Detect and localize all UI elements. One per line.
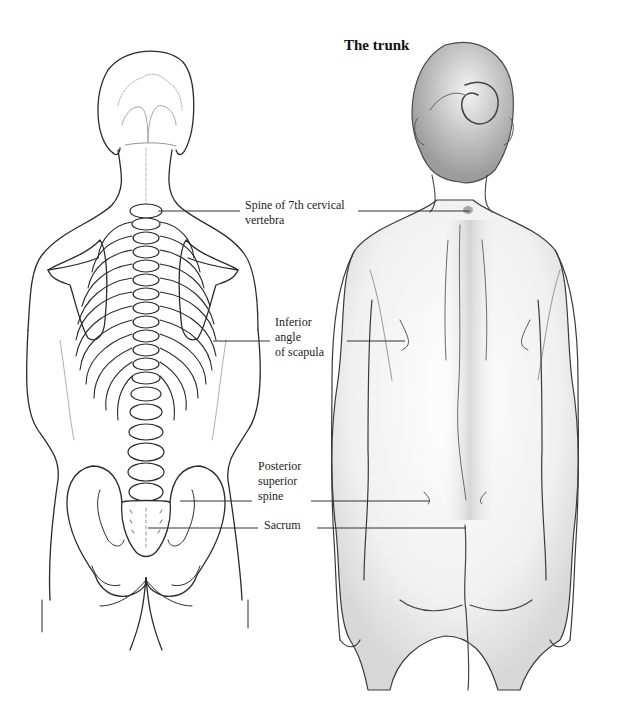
- skeleton-figure: [27, 51, 261, 650]
- figure-title: The trunk: [344, 37, 409, 54]
- label-inferior-angle-of-scapula: Inferior angle of scapula: [273, 315, 326, 360]
- label-line: of scapula: [275, 345, 324, 360]
- label-line: spine: [258, 489, 301, 504]
- label-spine-of-7th-cervical-vertebra: Spine of 7th cervical vertebra: [243, 198, 347, 228]
- label-line: Spine of 7th cervical: [245, 198, 345, 213]
- anatomy-figure: The trunk Spine of 7th cervical vertebra…: [0, 0, 626, 725]
- label-posterior-superior-spine: Posterior superior spine: [256, 459, 303, 504]
- label-line: Posterior: [258, 459, 301, 474]
- label-line: angle: [275, 330, 324, 345]
- label-line: vertebra: [245, 213, 345, 228]
- illustration: [0, 0, 626, 725]
- ribs-right: [160, 222, 216, 420]
- label-line: Inferior: [275, 315, 324, 330]
- label-line: superior: [258, 474, 301, 489]
- label-line: Sacrum: [264, 518, 301, 533]
- skull-outline: [98, 51, 194, 154]
- model-figure: [332, 42, 579, 690]
- vertebral-column: [128, 204, 164, 501]
- label-sacrum: Sacrum: [262, 518, 303, 533]
- scapula-right: [179, 240, 238, 340]
